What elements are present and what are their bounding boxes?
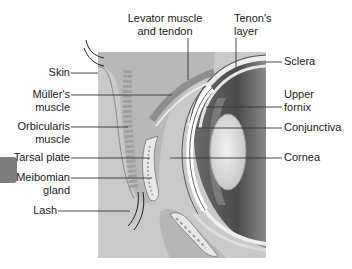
label-sclera: Sclera [284,55,315,68]
label-line: fornix [284,101,314,114]
label-line: Orbicularis [17,120,70,133]
label-skin: Skin [49,66,70,79]
label-line: Lash [33,204,57,217]
label-line: layer [234,25,272,38]
label-line: Skin [49,66,70,79]
label-line: Sclera [284,55,315,68]
label-line: Conjunctiva [284,121,341,134]
label-tenons-layer: Tenon's layer [234,12,272,38]
label-meibomian-gland: Meibomian gland [16,171,70,197]
label-upper-fornix: Upper fornix [284,88,314,114]
label-conjunctiva: Conjunctiva [284,121,341,134]
label-lash: Lash [33,204,57,217]
label-levator-muscle: Levator muscle and tendon [117,12,213,38]
label-line: Meibomian [16,171,70,184]
label-line: Tenon's [234,12,272,25]
label-line: muscle [32,101,70,114]
label-cornea: Cornea [284,151,320,164]
label-line: muscle [17,133,70,146]
label-line: and tendon [117,25,213,38]
label-line: Cornea [284,151,320,164]
label-orbicularis-muscle: Orbicularis muscle [17,120,70,146]
label-line: Müller's [32,88,70,101]
label-line: Upper [284,88,314,101]
label-line: Tarsal plate [14,151,70,164]
label-tarsal-plate: Tarsal plate [14,151,70,164]
label-mullers-muscle: Müller's muscle [32,88,70,114]
label-line: Levator muscle [117,12,213,25]
label-line: gland [16,184,70,197]
